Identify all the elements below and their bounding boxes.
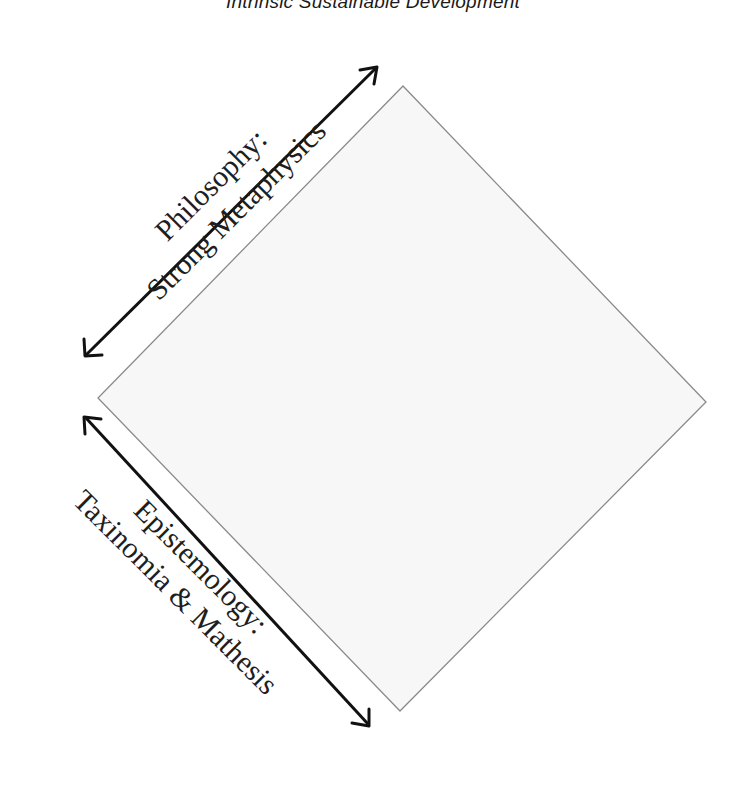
- diagram-canvas: Philosophy: Strong Metaphysics Epistemol…: [0, 0, 746, 803]
